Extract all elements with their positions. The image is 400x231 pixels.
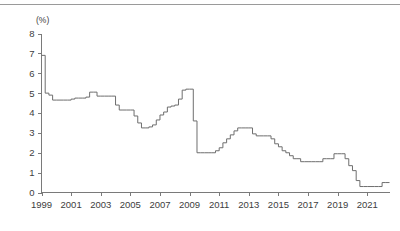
line-chart-plot: 012345678 199920012003200520072009201120…: [0, 0, 400, 231]
x-tick-label-2009: 2009: [179, 199, 200, 210]
tick-marks-group: [38, 35, 368, 197]
x-tick-label-2003: 2003: [90, 199, 111, 210]
x-tick-label-2019: 2019: [327, 199, 348, 210]
x-tick-label-2005: 2005: [120, 199, 141, 210]
y-tick-label-0: 0: [29, 187, 34, 198]
axes-group: [42, 34, 390, 193]
y-tick-label-5: 5: [29, 88, 34, 99]
x-tick-label-2011: 2011: [209, 199, 229, 210]
y-tick-label-3: 3: [29, 127, 34, 138]
y-tick-label-6: 6: [29, 68, 34, 79]
y-tick-label-4: 4: [29, 107, 34, 118]
chart-figure: 012345678 199920012003200520072009201120…: [0, 0, 400, 231]
x-tick-label-2017: 2017: [297, 199, 318, 210]
y-axis-tick-labels: 012345678: [29, 28, 34, 198]
y-axis-unit-label: (%): [36, 15, 49, 25]
y-tick-label-8: 8: [29, 28, 34, 39]
y-tick-label-7: 7: [29, 48, 34, 59]
x-tick-label-2007: 2007: [149, 199, 170, 210]
x-axis-tick-labels: 1999200120032005200720092011201320152017…: [31, 199, 378, 210]
x-tick-label-1999: 1999: [31, 199, 52, 210]
x-tick-label-2013: 2013: [238, 199, 259, 210]
x-tick-label-2021: 2021: [357, 199, 378, 210]
y-tick-label-2: 2: [29, 147, 34, 158]
x-tick-label-2001: 2001: [61, 199, 82, 210]
x-tick-label-2015: 2015: [268, 199, 289, 210]
rate-series-line: [42, 55, 390, 186]
y-tick-label-1: 1: [29, 167, 34, 178]
